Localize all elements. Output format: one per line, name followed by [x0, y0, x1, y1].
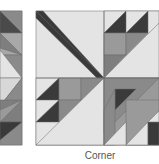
- block-caption: Corner: [70, 150, 130, 162]
- quilt-diagram: [0, 0, 159, 164]
- partial-left-block: [0, 11, 22, 145]
- corner-block: [36, 11, 159, 145]
